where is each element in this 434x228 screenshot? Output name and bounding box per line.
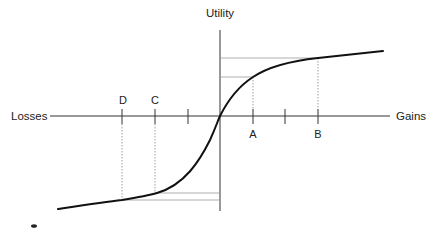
point-label-c: C [151, 95, 159, 106]
point-label-d: D [119, 95, 127, 106]
y-axis-label: Utility [206, 8, 234, 20]
x-axis-positive-label: Gains [396, 111, 426, 123]
x-axis-negative-label: Losses [11, 111, 47, 123]
point-label-b: B [314, 129, 321, 140]
stray-mark [31, 224, 37, 228]
point-label-a: A [249, 129, 256, 140]
utility-curve-diagram [0, 0, 434, 228]
